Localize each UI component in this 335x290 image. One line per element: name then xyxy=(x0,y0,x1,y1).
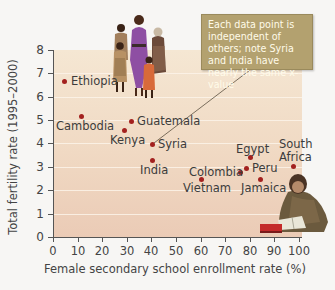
data-point-south-africa xyxy=(291,164,296,169)
point-label: Cambodia xyxy=(56,120,114,132)
data-point-india xyxy=(150,158,155,163)
point-label: Kenya xyxy=(110,134,145,146)
data-point-guatemala xyxy=(129,119,134,124)
data-point-ethiopia xyxy=(62,79,67,84)
point-label: Africa xyxy=(279,151,312,163)
point-label: Peru xyxy=(252,162,278,174)
annotation-note: Each data point is independent of others… xyxy=(201,14,313,70)
point-label: Colombia xyxy=(189,166,243,178)
point-label: South xyxy=(279,138,312,150)
point-label: Guatemala xyxy=(137,115,200,127)
point-label: Egypt xyxy=(236,143,269,155)
point-label: India xyxy=(140,164,168,176)
data-point-syria xyxy=(150,142,155,147)
point-label: Ethiopia xyxy=(71,75,118,87)
point-label: Syria xyxy=(158,138,187,150)
data-point-cambodia xyxy=(79,114,84,119)
point-label: Vietnam xyxy=(183,182,231,194)
data-point-peru xyxy=(244,166,249,171)
data-point-kenya xyxy=(122,128,127,133)
point-label: Jamaica xyxy=(241,182,286,194)
